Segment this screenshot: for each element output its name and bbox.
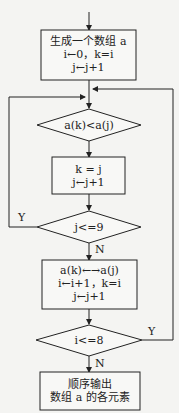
assign-box-line-1: k = j xyxy=(52,163,125,176)
condition-j-le-9: j<=9 xyxy=(41,221,137,234)
swap-box-line-1: a(k)←→a(j) xyxy=(42,264,137,277)
condition-ak-lt-aj: a(k)<a(j) xyxy=(41,119,137,132)
start-box-line-2: i←0，k=i xyxy=(41,48,136,61)
assign-box: k = j j←j+1 xyxy=(52,163,125,189)
swap-box-line-3: j←j+1 xyxy=(42,290,137,303)
cond3-no-label: N xyxy=(95,357,105,370)
start-box-line-1: 生成一个数组 a xyxy=(41,35,136,48)
assign-box-line-2: j←j+1 xyxy=(52,176,125,189)
swap-box-line-2: i←i+1，k=i xyxy=(42,277,137,290)
condition-i-le-8: i<=8 xyxy=(41,334,137,347)
output-box: 顺序输出 数组 a 的各元素 xyxy=(40,378,140,404)
output-box-line-1: 顺序输出 xyxy=(40,378,140,391)
cond2-yes-label: Y xyxy=(18,211,25,224)
start-box: 生成一个数组 a i←0，k=i j←j+1 xyxy=(41,35,136,74)
output-box-line-2: 数组 a 的各元素 xyxy=(40,391,140,404)
start-box-line-3: j←j+1 xyxy=(41,61,136,74)
cond3-yes-label: Y xyxy=(148,325,155,338)
swap-box: a(k)←→a(j) i←i+1，k=i j←j+1 xyxy=(42,264,137,303)
cond2-no-label: N xyxy=(95,243,105,256)
